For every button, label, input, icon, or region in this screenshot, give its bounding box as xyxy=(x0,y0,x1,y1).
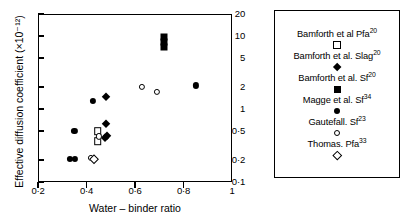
plot-panel: 0·10·20·51251020 0·20·40·60·81 Effective… xyxy=(0,0,245,222)
legend-label: Bamforth et al. Slag20 xyxy=(293,51,380,62)
legend-marker xyxy=(334,150,341,161)
y-tick-label: 20 xyxy=(211,9,245,19)
legend-label: Bamforth et al. Sf20 xyxy=(298,73,375,84)
y-tick xyxy=(38,159,44,160)
y-tick-label: 1 xyxy=(211,104,245,114)
legend-marker xyxy=(334,128,340,139)
y-tick xyxy=(38,181,44,182)
x-tick-label: 1 xyxy=(212,186,252,196)
y-tick-label: 2 xyxy=(211,82,245,92)
marker-filled-diamond xyxy=(332,62,341,71)
data-point xyxy=(161,44,168,51)
y-tick xyxy=(38,108,44,109)
x-axis-title: Water – binder ratio xyxy=(38,203,232,214)
legend-entry: Gautefall. Sf23 xyxy=(275,117,399,139)
y-tick-label: 0·2 xyxy=(211,155,245,165)
legend: Bamforth et al Pfa20Bamforth et al. Slag… xyxy=(274,10,400,178)
y-tick-label: 0·5 xyxy=(211,126,245,136)
marker-filled-square xyxy=(334,86,341,93)
legend-reference-superscript: 20 xyxy=(373,48,380,55)
legend-marker xyxy=(334,106,340,117)
figure: 0·10·20·51251020 0·20·40·60·81 Effective… xyxy=(0,0,405,222)
y-tick-label: 5 xyxy=(211,53,245,63)
legend-label: Bamforth et al Pfa20 xyxy=(297,29,377,40)
legend-reference-superscript: 20 xyxy=(370,26,377,33)
legend-reference-superscript: 23 xyxy=(358,114,365,121)
y-tick xyxy=(38,35,44,36)
y-tick xyxy=(38,13,44,14)
y-tick-label: 10 xyxy=(211,31,245,41)
y-axis-title: Effective diffusion coefficient (×10⁻¹²) xyxy=(14,0,25,207)
x-tick-label: 0·8 xyxy=(164,186,204,196)
legend-entry: Bamforth et al. Sf20 xyxy=(275,73,399,95)
y-tick xyxy=(38,130,44,131)
marker-open-circle xyxy=(334,130,340,136)
legend-marker xyxy=(334,84,341,95)
legend-label: Gautefall. Sf23 xyxy=(308,117,365,128)
x-tick-label: 0·6 xyxy=(115,186,155,196)
legend-reference-superscript: 33 xyxy=(359,136,366,143)
y-tick xyxy=(38,57,44,58)
legend-reference-superscript: 20 xyxy=(368,70,375,77)
legend-marker xyxy=(334,62,340,73)
marker-open-square xyxy=(333,41,341,49)
legend-entry: Magge et al. Sf34 xyxy=(275,95,399,117)
legend-entry: Bamforth et al. Slag20 xyxy=(275,51,399,73)
y-tick xyxy=(38,86,44,87)
legend-entry: Bamforth et al Pfa20 xyxy=(275,29,399,51)
legend-marker xyxy=(333,40,341,51)
legend-label: Thomas. Pfa33 xyxy=(308,139,367,150)
legend-reference-superscript: 34 xyxy=(364,92,371,99)
marker-open-diamond xyxy=(332,150,341,159)
legend-label: Magge et al. Sf34 xyxy=(303,95,371,106)
legend-entry: Thomas. Pfa33 xyxy=(275,139,399,161)
x-tick-label: 0·4 xyxy=(67,186,107,196)
marker-filled-circle xyxy=(334,108,340,114)
